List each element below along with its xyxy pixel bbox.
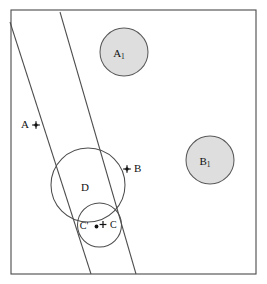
label-point-c: C — [110, 219, 117, 230]
marker-point-c-prime — [95, 225, 99, 229]
label-d: D — [81, 181, 89, 193]
marker-point-b — [123, 165, 131, 173]
marker-point-c — [100, 221, 107, 228]
label-point-b: B — [134, 162, 141, 174]
figure-canvas: A1 B1 D A B C' C — [0, 0, 267, 284]
band-left-line — [10, 22, 91, 274]
label-point-c-prime: C' — [80, 220, 89, 231]
label-a1-base: A — [113, 47, 121, 59]
label-a1-subscript: 1 — [121, 52, 125, 61]
label-point-a: A — [21, 118, 29, 130]
label-b1-base: B — [199, 155, 206, 167]
label-b1-subscript: 1 — [207, 160, 211, 169]
marker-point-a — [32, 121, 40, 129]
figure-container: A1 B1 D A B C' C — [0, 0, 267, 284]
